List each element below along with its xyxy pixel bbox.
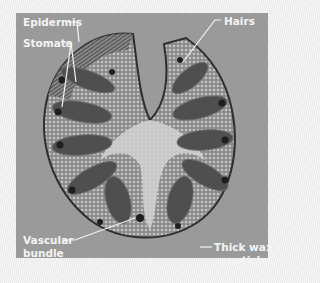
label-vascular-bundle-line1: Vascular (23, 234, 73, 246)
label-epidermis: Epidermis (23, 16, 82, 28)
label-stomata: Stomata (23, 37, 73, 49)
label-vascular-bundle-line2: bundle (23, 247, 64, 259)
label-cuticle-line2: cuticle (228, 254, 267, 266)
label-hairs: Hairs (224, 15, 255, 27)
label-cuticle-line1: Thick waxy (214, 241, 280, 253)
